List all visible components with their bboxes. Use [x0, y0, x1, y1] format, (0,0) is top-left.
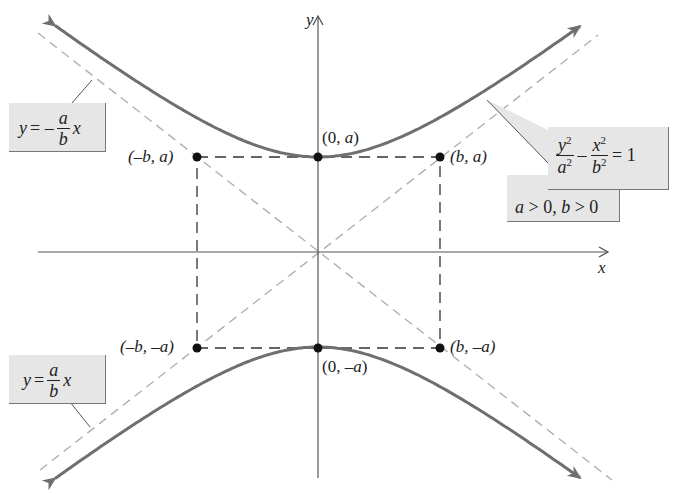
- point-top-right: [436, 153, 445, 162]
- equation-rhs: = 1: [612, 145, 636, 166]
- label-top-right: (b, a): [450, 147, 487, 167]
- fraction-x2-over-b2: x2 b2: [591, 135, 609, 176]
- x-axis-label: x: [598, 258, 606, 278]
- callout-equation: y2 a2 – x2 b2 = 1: [548, 127, 669, 190]
- callout-eq: = –: [30, 118, 54, 139]
- callout-lhs: y: [19, 118, 27, 139]
- label-bottom-left: (–b, –a): [120, 337, 174, 357]
- label-bottom-right: (b, –a): [450, 337, 495, 357]
- leader-pos-asymptote: [70, 402, 90, 427]
- label-top-left: (–b, a): [128, 147, 173, 167]
- leader-neg-asymptote: [72, 80, 92, 103]
- point-bottom-left: [193, 344, 202, 353]
- point-top-left: [193, 153, 202, 162]
- callout-eq: =: [34, 370, 44, 391]
- callout-rhs: x: [73, 118, 81, 139]
- minus-sign: –: [578, 145, 587, 166]
- label-bottom-vertex: (0, –a): [322, 357, 367, 377]
- callout-neg-asymptote: y = – ab x: [9, 103, 106, 152]
- hyperbola-equation: y2 a2 – x2 b2 = 1: [556, 135, 636, 176]
- callout-rhs: x: [63, 370, 71, 391]
- callout-lhs: y: [23, 370, 31, 391]
- y-axis-label: y: [306, 10, 314, 30]
- fraction-y2-over-a2: y2 a2: [556, 135, 574, 176]
- point-bottom-right: [436, 344, 445, 353]
- point-bottom-vertex: [314, 344, 323, 353]
- fraction-a-over-b: ab: [57, 109, 70, 148]
- asymptote-negative-slope: [38, 33, 612, 480]
- diagram-canvas: [0, 0, 683, 495]
- point-top-vertex: [314, 153, 323, 162]
- callout-pos-asymptote: y = ab x: [9, 355, 106, 404]
- condition-text: a > 0, b > 0: [515, 197, 598, 218]
- label-top-vertex: (0, a): [322, 128, 359, 148]
- hyperbola-diagram: y x (0, a) (0, –a) (–b, a) (b, a) (–b, –…: [0, 0, 683, 495]
- fraction-a-over-b: ab: [47, 361, 60, 400]
